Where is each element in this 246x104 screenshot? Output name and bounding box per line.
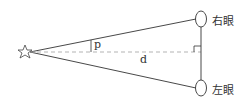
parallax-diagram: 右眼 左眼 p d (0, 0, 246, 104)
distance-label: d (140, 53, 147, 66)
sightline-left-eye (30, 52, 196, 88)
left-eye-icon (196, 80, 207, 96)
right-eye-label: 右眼 (212, 12, 234, 28)
right-angle-mark (194, 46, 201, 52)
sightline-right-eye (30, 19, 196, 52)
star-icon (18, 45, 32, 58)
angle-label: p (94, 38, 101, 51)
diagram-graphic (0, 0, 246, 104)
right-eye-icon (196, 11, 207, 27)
left-eye-label: 左眼 (212, 81, 234, 97)
